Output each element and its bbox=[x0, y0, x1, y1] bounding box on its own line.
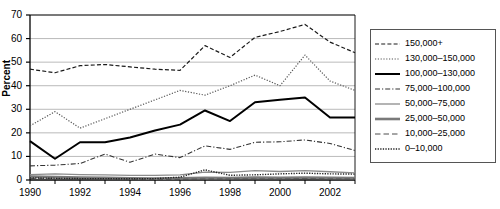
chart-legend: 150,000+130,000–150,000100,000–130,00075… bbox=[370, 29, 496, 163]
legend-line-icon bbox=[375, 99, 400, 109]
legend-line-icon bbox=[375, 54, 400, 64]
series-line bbox=[30, 24, 355, 72]
legend-item[interactable]: 150,000+ bbox=[375, 36, 490, 51]
legend-line-icon bbox=[375, 114, 400, 124]
series-line bbox=[30, 171, 355, 176]
legend-item[interactable]: 25,000–50,000 bbox=[375, 111, 490, 126]
legend-label: 150,000+ bbox=[405, 39, 443, 48]
legend-item[interactable]: 75,000–100,000 bbox=[375, 81, 490, 96]
legend-label: 75,000–100,000 bbox=[405, 84, 470, 93]
legend-label: 10,000–25,000 bbox=[405, 129, 465, 138]
series-line bbox=[30, 176, 355, 178]
legend-line-icon bbox=[375, 69, 400, 79]
legend-label: 100,000–130,000 bbox=[405, 69, 475, 78]
legend-label: 130,000–150,000 bbox=[405, 54, 475, 63]
legend-item[interactable]: 130,000–150,000 bbox=[375, 51, 490, 66]
legend-item[interactable]: 50,000–75,000 bbox=[375, 96, 490, 111]
legend-item[interactable]: 0–10,000 bbox=[375, 141, 490, 156]
legend-label: 50,000–75,000 bbox=[405, 99, 465, 108]
plot-area: Percent 010203040506070 1990199219941996… bbox=[0, 0, 362, 209]
legend-line-icon bbox=[375, 144, 400, 154]
legend-line-icon bbox=[375, 39, 400, 49]
legend-item[interactable]: 10,000–25,000 bbox=[375, 126, 490, 141]
legend-label: 0–10,000 bbox=[405, 144, 443, 153]
legend-item[interactable]: 100,000–130,000 bbox=[375, 66, 490, 81]
series-line bbox=[30, 98, 355, 159]
chart-figure: Percent 010203040506070 1990199219941996… bbox=[0, 0, 500, 209]
plot-svg bbox=[0, 0, 362, 209]
legend-line-icon bbox=[375, 129, 400, 139]
legend-line-icon bbox=[375, 84, 400, 94]
legend-label: 25,000–50,000 bbox=[405, 114, 465, 123]
